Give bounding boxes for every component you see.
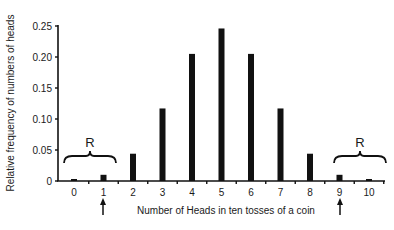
x-tick-label: 5 [219, 187, 225, 198]
bar-4 [189, 54, 195, 181]
bar-9 [337, 175, 343, 181]
x-tick-label: 10 [363, 187, 375, 198]
x-tick-label: 1 [101, 187, 107, 198]
right-rejection-brace: R [334, 135, 386, 163]
y-tick-label: 0.05 [33, 145, 53, 156]
left-r-label: R [85, 135, 94, 150]
bar-5 [219, 28, 225, 181]
bar-7 [278, 108, 284, 181]
arrow-up-icon [337, 198, 343, 215]
x-tick-label: 4 [189, 187, 195, 198]
bar-0 [71, 179, 77, 181]
bars [71, 28, 372, 181]
x-axis-title: Number of Heads in ten tosses of a coin [137, 205, 315, 216]
x-tick-label: 8 [307, 187, 313, 198]
bar-2 [130, 154, 136, 181]
bar-10 [366, 179, 372, 181]
x-ticks: 012345678910 [71, 181, 384, 198]
chart: Relative frequency of numbers of heads 0… [0, 0, 394, 230]
x-tick-label: 6 [248, 187, 254, 198]
right-r-label: R [355, 135, 364, 150]
y-tick-label: 0.10 [33, 114, 53, 125]
bar-8 [307, 154, 313, 181]
brace-icon [334, 151, 386, 163]
brace-icon [64, 151, 116, 163]
x-tick-label: 0 [71, 187, 77, 198]
y-tick-label: 0.15 [33, 83, 53, 94]
x-tick-label: 3 [160, 187, 166, 198]
y-ticks: 00.050.100.150.200.25 [33, 21, 58, 187]
y-tick-label: 0 [46, 176, 52, 187]
bar-6 [248, 54, 254, 181]
arrow-up-icon [100, 198, 106, 215]
left-rejection-brace: R [64, 135, 116, 163]
x-tick-label: 2 [130, 187, 136, 198]
x-tick-label: 9 [337, 187, 343, 198]
x-tick-label: 7 [278, 187, 284, 198]
y-axis-title: Relative frequency of numbers of heads [5, 15, 16, 192]
bar-3 [160, 108, 166, 181]
y-tick-label: 0.25 [33, 21, 53, 32]
y-tick-label: 0.20 [33, 52, 53, 63]
bar-1 [101, 175, 107, 181]
